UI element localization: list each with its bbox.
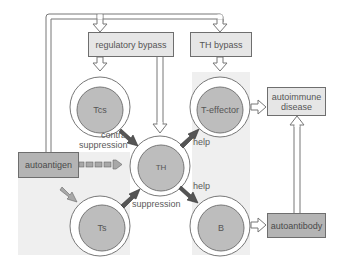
suppression-label: suppression [132,199,181,209]
help-upper-label: help [193,137,210,147]
th-bypass-box: TH bypass [190,32,252,57]
autoantigen-label: autoantigen [25,160,72,170]
arrow-to-th-bypass [213,19,227,32]
th-bypass-label: TH bypass [199,40,242,50]
th-label: TH [141,163,181,173]
arrow-teffector-to-disease [251,100,266,114]
autoimmune-disease-line1: autoimmune [272,92,322,102]
autoimmune-disease-line2: disease [281,102,312,112]
tcs-label: Tcs [80,105,120,115]
ts-label: Ts [82,223,122,233]
help-lower-label: help [193,181,210,191]
b-label: B [201,223,241,233]
arrow-regbypass-to-tcs [93,57,107,71]
t-effector-label: T-effector [196,105,244,115]
arrow-regbypass-to-th [153,57,167,133]
autoantibody-box: autoantibody [267,213,326,238]
diagram-canvas: regulatory bypass TH bypass autoantigen … [0,0,344,270]
autoantibody-label: autoantibody [271,221,323,231]
autoimmune-disease-box: autoimmune disease [267,87,326,116]
arrow-b-to-autoantibody [251,218,266,232]
regulatory-bypass-label: regulatory bypass [95,40,166,50]
regulatory-bypass-box: regulatory bypass [88,32,174,57]
arrow-autoantibody-to-disease [290,116,304,213]
autoantigen-box: autoantigen [18,152,79,178]
arrow-to-regulatory-bypass [93,19,107,32]
contra-suppression-label: suppression [79,140,128,150]
arrow-thbypass-to-teffector [213,57,227,71]
contra-label: contra [101,130,126,140]
